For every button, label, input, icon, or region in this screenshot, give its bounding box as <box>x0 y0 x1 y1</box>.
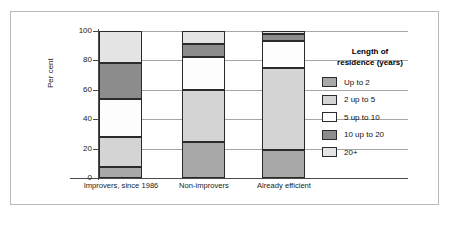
bar-segment[interactable] <box>262 31 305 34</box>
legend: Length of residence (years) Up to 22 up … <box>322 47 418 163</box>
bar-segment[interactable] <box>182 90 225 142</box>
bar-segment[interactable] <box>182 57 225 89</box>
bar-segment[interactable] <box>182 44 225 57</box>
y-tick-label-20: 20 <box>66 145 92 153</box>
legend-item[interactable]: 5 up to 10 <box>322 110 418 124</box>
legend-item-label: Up to 2 <box>344 78 370 87</box>
y-axis-line <box>98 29 99 180</box>
bar-segment[interactable] <box>99 63 142 98</box>
y-axis-tick-labels: 100 80 60 40 20 0 <box>62 0 92 227</box>
legend-item-label: 5 up to 10 <box>344 113 380 122</box>
bar-segment[interactable] <box>262 68 305 150</box>
bar-segment[interactable] <box>182 142 225 178</box>
x-axis-label-already-efficient: Already efficient <box>230 181 338 190</box>
legend-title: Length of residence (years) <box>322 47 418 68</box>
legend-swatch-icon <box>322 112 337 122</box>
bar-segment[interactable] <box>99 31 142 63</box>
legend-item[interactable]: 20+ <box>322 145 418 159</box>
legend-item-label: 20+ <box>344 148 358 157</box>
legend-swatch-icon <box>322 95 337 105</box>
y-tick-label-40: 40 <box>66 115 92 123</box>
chart-figure: Per cent 100 80 60 40 20 0 Improvers, si… <box>0 0 451 227</box>
legend-title-line-2: residence (years) <box>322 58 418 69</box>
gridline-100 <box>99 31 408 32</box>
legend-swatch-icon <box>322 147 337 157</box>
legend-swatch-icon <box>322 77 337 87</box>
y-tick-label-80: 80 <box>66 56 92 64</box>
legend-title-line-1: Length of <box>322 47 418 58</box>
bar-segment[interactable] <box>262 41 305 67</box>
legend-item-label: 2 up to 5 <box>344 95 375 104</box>
bar-segment[interactable] <box>99 137 142 167</box>
legend-item[interactable]: 10 up to 20 <box>322 128 418 142</box>
bar-segment[interactable] <box>262 150 305 178</box>
y-axis-title: Per cent <box>46 58 55 88</box>
bar-segment[interactable] <box>262 34 305 41</box>
legend-item[interactable]: Up to 2 <box>322 75 418 89</box>
legend-item-label: 10 up to 20 <box>344 130 384 139</box>
y-tick-label-60: 60 <box>66 86 92 94</box>
legend-item[interactable]: 2 up to 5 <box>322 93 418 107</box>
y-tick-label-100: 100 <box>66 27 92 35</box>
bar-segment[interactable] <box>99 167 142 178</box>
x-axis-line <box>70 178 408 179</box>
bar-segment[interactable] <box>99 99 142 137</box>
legend-swatch-icon <box>322 130 337 140</box>
bar-segment[interactable] <box>182 31 225 44</box>
